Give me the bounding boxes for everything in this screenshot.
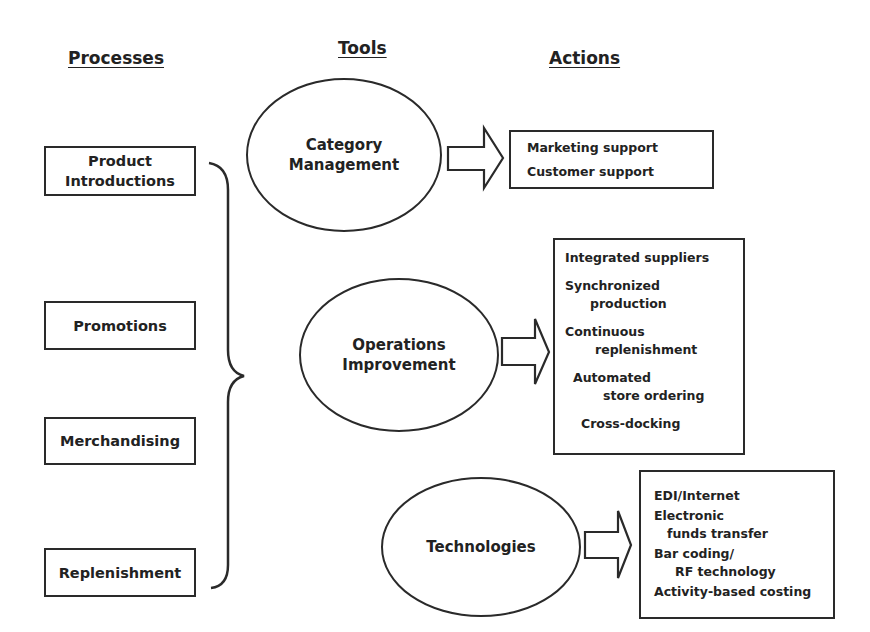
tool-label: Improvement	[342, 355, 455, 375]
action-item: RF technology	[675, 564, 776, 579]
tool-category-management: Category Management	[246, 78, 442, 232]
action-item: Electronic	[654, 508, 724, 523]
action-item: store ordering	[603, 388, 704, 403]
action-item: Activity-based costing	[654, 584, 811, 599]
action-item: Marketing support	[527, 140, 658, 155]
tool-operations-improvement: Operations Improvement	[299, 278, 499, 432]
tool-technologies: Technologies	[381, 477, 581, 617]
action-item: Cross-docking	[581, 416, 680, 431]
tool-label: Operations	[352, 335, 445, 355]
action-item: production	[590, 296, 667, 311]
actions-technologies: EDI/Internet Electronic funds transfer B…	[639, 470, 835, 619]
actions-operations-improvement: Integrated suppliers Synchronized produc…	[553, 238, 745, 455]
tool-label: Technologies	[426, 537, 535, 557]
action-item: Bar coding/	[654, 546, 734, 561]
brace-icon	[209, 163, 244, 588]
tool-label: Management	[289, 155, 399, 175]
action-item: replenishment	[595, 342, 697, 357]
actions-category-management: Marketing support Customer support	[509, 130, 714, 189]
action-item: EDI/Internet	[654, 488, 740, 503]
arrow-right-icon	[585, 511, 631, 578]
action-item: Integrated suppliers	[565, 250, 709, 265]
action-item: funds transfer	[667, 526, 768, 541]
action-item: Synchronized	[565, 278, 660, 293]
arrow-right-icon	[502, 319, 549, 384]
arrow-right-icon	[448, 128, 503, 188]
action-item: Automated	[573, 370, 651, 385]
action-item: Customer support	[527, 164, 654, 179]
tool-label: Category	[306, 135, 383, 155]
action-item: Continuous	[565, 324, 645, 339]
